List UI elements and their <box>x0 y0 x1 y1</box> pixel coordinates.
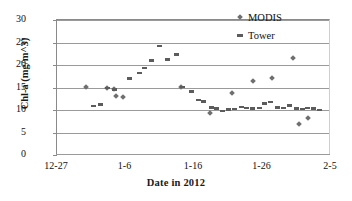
data-point-tower <box>189 90 194 93</box>
x-axis-tick-label: 12-27 <box>33 160 79 171</box>
gridline <box>57 110 329 111</box>
chart-legend: MODISTower <box>236 8 348 44</box>
x-axis-tick-label: 1-6 <box>102 160 148 171</box>
dash-marker-icon <box>236 31 244 39</box>
data-point-tower <box>262 102 267 105</box>
y-axis-tick <box>53 20 57 21</box>
data-point-tower <box>91 105 96 108</box>
data-point-tower <box>127 77 132 80</box>
gridline <box>57 88 329 89</box>
data-point-modis <box>305 115 311 121</box>
legend-item-modis: MODIS <box>236 8 348 26</box>
data-point-tower <box>149 59 154 62</box>
x-axis-tick-label: 1-16 <box>170 160 216 171</box>
data-point-tower <box>287 104 292 107</box>
data-point-tower <box>268 101 273 104</box>
legend-item-tower: Tower <box>236 26 348 44</box>
data-point-modis <box>230 90 236 96</box>
diamond-marker-icon <box>236 13 244 21</box>
data-point-tower <box>142 67 147 70</box>
data-point-modis <box>120 94 126 100</box>
data-point-tower <box>239 106 244 109</box>
y-axis-tick <box>53 133 57 134</box>
y-axis-tick-label: 0 <box>0 149 26 159</box>
y-axis-tick <box>53 155 57 156</box>
data-point-tower <box>137 72 142 75</box>
y-axis-title: Chl-a (mg/m^3) <box>19 4 30 144</box>
gridline <box>57 65 329 66</box>
y-axis-tick <box>53 110 57 111</box>
y-axis-tick <box>53 88 57 89</box>
data-point-modis <box>297 121 303 127</box>
data-point-tower <box>157 45 162 48</box>
data-point-modis <box>250 78 256 84</box>
legend-label: Tower <box>248 30 275 41</box>
x-axis-line <box>56 154 330 155</box>
gridline <box>57 133 329 134</box>
data-point-modis <box>113 93 119 99</box>
data-point-tower <box>98 103 103 106</box>
data-point-tower <box>209 106 214 109</box>
data-point-tower <box>174 53 179 56</box>
data-point-tower <box>201 100 206 103</box>
y-axis-tick <box>53 65 57 66</box>
x-axis-tick-label: 2-5 <box>307 160 352 171</box>
data-point-modis <box>290 55 296 61</box>
data-point-tower <box>196 99 201 102</box>
data-point-tower <box>275 106 280 109</box>
data-point-tower <box>244 107 249 110</box>
y-axis-tick <box>53 43 57 44</box>
data-point-modis <box>208 110 214 116</box>
legend-label: MODIS <box>248 12 282 23</box>
chart-figure: 051015202530 12-271-61-161-262-5 Date in… <box>0 0 352 201</box>
x-axis-tick-label: 1-26 <box>239 160 285 171</box>
x-axis-title: Date in 2012 <box>0 177 352 188</box>
data-point-tower <box>165 58 170 61</box>
data-point-modis <box>269 75 275 81</box>
